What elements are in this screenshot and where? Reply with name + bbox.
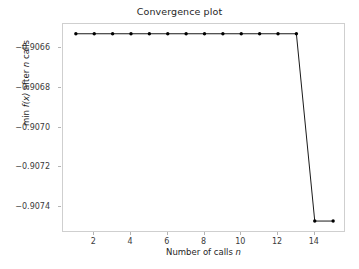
- data-point: [111, 32, 114, 35]
- x-tick-label: 4: [127, 237, 132, 246]
- x-tick-label: 6: [164, 237, 169, 246]
- x-tick-mark: [167, 232, 168, 235]
- y-axis-label: min f(x) after n calls: [21, 8, 31, 158]
- y-tick-mark: [58, 166, 61, 167]
- x-tick-mark: [277, 232, 278, 235]
- y-tick-mark: [58, 47, 61, 48]
- data-point: [148, 32, 151, 35]
- data-point: [313, 219, 316, 222]
- y-tick-label: −0.9072: [15, 162, 50, 171]
- data-point: [331, 219, 334, 222]
- data-point: [295, 32, 298, 35]
- data-point: [221, 32, 224, 35]
- x-tick-mark: [130, 232, 131, 235]
- data-point: [184, 32, 187, 35]
- data-point: [203, 32, 206, 35]
- x-axis-label: Number of calls n: [62, 247, 345, 257]
- y-tick-mark: [58, 206, 61, 207]
- data-point: [93, 32, 96, 35]
- data-point: [129, 32, 132, 35]
- series-line-min-fx: [63, 24, 346, 233]
- data-point: [166, 32, 169, 35]
- chart-title: Convergence plot: [0, 6, 359, 17]
- x-tick-label: 12: [272, 237, 282, 246]
- x-tick-mark: [314, 232, 315, 235]
- x-tick-mark: [240, 232, 241, 235]
- x-tick-label: 2: [91, 237, 96, 246]
- data-point: [74, 32, 77, 35]
- data-point-markers: [74, 32, 335, 223]
- x-tick-mark: [204, 232, 205, 235]
- y-tick-mark: [58, 87, 61, 88]
- y-tick-label: −0.9074: [15, 202, 50, 211]
- x-tick-label: 10: [235, 237, 245, 246]
- x-tick-label: 14: [309, 237, 319, 246]
- x-axis-tick-labels: 2468101214: [62, 232, 345, 248]
- data-point: [276, 32, 279, 35]
- x-tick-mark: [93, 232, 94, 235]
- data-point: [258, 32, 261, 35]
- x-tick-label: 8: [201, 237, 206, 246]
- y-tick-mark: [58, 127, 61, 128]
- plot-area: [62, 23, 345, 232]
- data-point: [240, 32, 243, 35]
- convergence-plot-figure: Convergence plot −0.9066−0.9068−0.9070−0…: [0, 0, 359, 269]
- data-polyline: [76, 34, 333, 221]
